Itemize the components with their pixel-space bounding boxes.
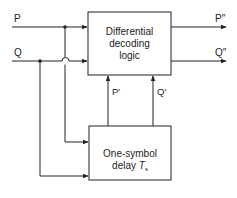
- delay-text: delay: [112, 160, 139, 171]
- delay-label-line2: delay Ts: [112, 160, 148, 172]
- q-input-label: Q: [14, 47, 22, 58]
- decoder-label-line1: Differential: [106, 26, 154, 37]
- p-branch-to-delay: [65, 27, 88, 142]
- differential-decoder-diagram: P Q P″ Q″ P′ Q′ Differential decoding lo…: [0, 0, 237, 198]
- p-output-label: P″: [215, 13, 226, 24]
- q-branch-to-delay: [40, 61, 88, 176]
- delay-label-line1: One-symbol: [103, 148, 157, 159]
- p-input-label: P: [14, 13, 21, 24]
- decoder-label-line3: logic: [119, 50, 140, 61]
- q-output-label: Q″: [215, 47, 227, 58]
- q-input-line: [12, 58, 87, 62]
- decoder-label-line2: decoding: [109, 38, 150, 49]
- p-prime-label: P′: [112, 86, 120, 97]
- q-prime-label: Q′: [157, 86, 166, 97]
- delay-subscript: s: [145, 166, 148, 172]
